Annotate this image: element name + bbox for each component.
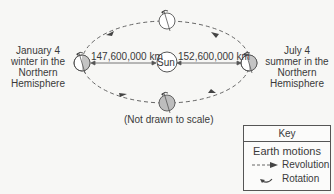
key-subtitle: Earth motions <box>244 145 330 158</box>
sun-label: Sun <box>157 57 175 68</box>
january-label: January 4 winter in the Northern Hemisph… <box>4 45 72 89</box>
label-line: Northern <box>262 67 332 78</box>
label-line: July 4 <box>262 45 332 56</box>
label-line: summer in the <box>262 56 332 67</box>
label-line: Hemisphere <box>4 78 72 89</box>
label-line: January 4 <box>4 45 72 56</box>
key-label: Revolution <box>282 158 329 172</box>
key-title: Key <box>244 126 330 142</box>
key-box: Key Earth motions Revolution Rotation <box>243 125 331 191</box>
january-distance: 147,600,000 km <box>91 51 163 62</box>
key-item-revolution: Revolution <box>244 158 330 172</box>
scale-note: (Not drawn to scale) <box>124 114 213 125</box>
orbit-arrow-icon <box>208 89 216 93</box>
key-item-rotation: Rotation <box>244 172 330 186</box>
key-label: Rotation <box>282 172 319 186</box>
orbit-arrow-icon <box>119 93 127 97</box>
orbit-arrow-icon <box>211 32 219 38</box>
label-line: winter in the <box>4 56 72 67</box>
dashed-arrow-icon <box>252 160 280 170</box>
label-line: Hemisphere <box>262 78 332 89</box>
july-distance: 152,600,000 km <box>178 51 250 62</box>
earth-january <box>74 52 90 73</box>
july-label: July 4 summer in the Northern Hemisphere <box>262 45 332 89</box>
earth-bottom <box>159 92 175 113</box>
label-line: Northern <box>4 67 72 78</box>
rotation-arrow-icon <box>252 174 280 184</box>
earth-top <box>159 10 175 31</box>
